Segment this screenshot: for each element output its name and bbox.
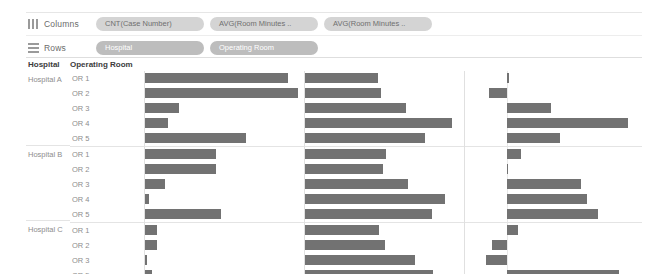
pill-avg-room-minutes-actual[interactable]: AVG(Room Minutes .. bbox=[210, 17, 318, 31]
operating-room-label[interactable]: OR 2 bbox=[70, 162, 144, 177]
bar-mark[interactable] bbox=[305, 270, 433, 274]
bar-mark[interactable] bbox=[507, 73, 510, 83]
tableau-worksheet: Columns CNT(Case Number) AVG(Room Minute… bbox=[0, 0, 663, 274]
columns-shelf[interactable]: Columns CNT(Case Number) AVG(Room Minute… bbox=[26, 13, 642, 36]
bar-mark[interactable] bbox=[507, 194, 587, 204]
bar-mark[interactable] bbox=[507, 209, 599, 219]
bar-mark[interactable] bbox=[507, 149, 522, 159]
operating-room-label[interactable]: OR 3 bbox=[70, 101, 144, 116]
operating-room-label[interactable]: OR 1 bbox=[70, 147, 144, 162]
operating-room-label[interactable]: OR 4 bbox=[70, 116, 144, 131]
pane-group bbox=[305, 223, 464, 274]
bar-mark[interactable] bbox=[305, 179, 408, 189]
operating-room-label[interactable]: OR 2 bbox=[70, 86, 144, 101]
chart-row bbox=[465, 192, 642, 207]
bar-mark[interactable] bbox=[507, 103, 552, 113]
chart-row bbox=[305, 238, 464, 253]
chart-row bbox=[465, 86, 642, 101]
bar-mark[interactable] bbox=[305, 88, 381, 98]
operating-room-label[interactable]: OR 3 bbox=[70, 253, 144, 268]
bar-mark[interactable] bbox=[489, 88, 507, 98]
bar-mark[interactable] bbox=[507, 164, 509, 174]
pane-group bbox=[465, 223, 642, 274]
bar-mark[interactable] bbox=[507, 118, 629, 128]
bar-mark[interactable] bbox=[305, 118, 452, 128]
operating-room-label[interactable]: OR 5 bbox=[70, 207, 144, 222]
hospital-name: Hospital C bbox=[26, 221, 70, 236]
hospital-group-label[interactable]: Hospital B bbox=[26, 146, 70, 221]
chart-row bbox=[305, 71, 464, 86]
room-group: OR 1OR 2OR 3OR 4OR 5 bbox=[70, 71, 144, 147]
chart-row bbox=[305, 147, 464, 162]
operating-room-label[interactable]: OR 2 bbox=[70, 238, 144, 253]
hospital-group-label[interactable]: Hospital C bbox=[26, 221, 70, 274]
bar-mark[interactable] bbox=[145, 164, 216, 174]
chart-row bbox=[465, 131, 642, 146]
operating-room-label[interactable]: OR 1 bbox=[70, 71, 144, 86]
header-operating-room: Operating Room bbox=[70, 60, 144, 71]
hospital-header-column: Hospital AHospital BHospital C bbox=[26, 71, 70, 274]
pill-avg-room-minutes-diff[interactable]: AVG(Room Minutes .. bbox=[324, 17, 432, 31]
pill-cnt-case-number[interactable]: CNT(Case Number) bbox=[96, 17, 204, 31]
bar-mark[interactable] bbox=[305, 103, 406, 113]
bar-mark[interactable] bbox=[145, 149, 216, 159]
bar-mark[interactable] bbox=[492, 240, 507, 250]
operating-room-label[interactable]: OR 3 bbox=[70, 177, 144, 192]
pane-avg-room-minutes-actual bbox=[304, 71, 464, 274]
bar-mark[interactable] bbox=[145, 209, 221, 219]
rows-shelf-label: Rows bbox=[44, 43, 66, 53]
rows-pills: Hospital Operating Room bbox=[96, 41, 318, 55]
bar-mark[interactable] bbox=[305, 73, 378, 83]
bar-mark[interactable] bbox=[145, 103, 179, 113]
hospital-group-label[interactable]: Hospital A bbox=[26, 71, 70, 146]
operating-room-label[interactable]: OR 5 bbox=[70, 268, 144, 274]
chart-row bbox=[305, 223, 464, 238]
bar-mark[interactable] bbox=[305, 149, 386, 159]
bar-mark[interactable] bbox=[305, 225, 379, 235]
bar-mark[interactable] bbox=[145, 240, 157, 250]
bar-mark[interactable] bbox=[507, 179, 581, 189]
pane-count-of-case-number bbox=[144, 71, 304, 274]
bar-mark[interactable] bbox=[486, 255, 507, 265]
chart-row bbox=[465, 177, 642, 192]
pill-operating-room[interactable]: Operating Room bbox=[210, 41, 318, 55]
operating-room-label[interactable]: OR 4 bbox=[70, 192, 144, 207]
columns-icon bbox=[28, 19, 39, 29]
pane-group bbox=[305, 147, 464, 223]
bar-mark[interactable] bbox=[145, 73, 288, 83]
chart-row bbox=[305, 268, 464, 274]
bar-mark[interactable] bbox=[145, 194, 149, 204]
bar-mark[interactable] bbox=[305, 194, 445, 204]
rows-shelf[interactable]: Rows Hospital Operating Room bbox=[26, 36, 642, 59]
bar-mark[interactable] bbox=[507, 270, 620, 274]
bar-mark[interactable] bbox=[145, 118, 168, 128]
chart-row bbox=[465, 101, 642, 116]
chart-row bbox=[145, 192, 304, 207]
pane-group bbox=[145, 147, 304, 223]
operating-room-label[interactable]: OR 5 bbox=[70, 131, 144, 146]
hospital-name: Hospital B bbox=[26, 146, 70, 161]
chart-row bbox=[305, 207, 464, 222]
bar-mark[interactable] bbox=[305, 133, 425, 143]
bar-mark[interactable] bbox=[145, 255, 147, 265]
bar-mark[interactable] bbox=[145, 225, 157, 235]
chart-row bbox=[145, 268, 304, 274]
chart-row bbox=[305, 131, 464, 146]
bar-mark[interactable] bbox=[145, 270, 152, 274]
chart-row bbox=[465, 238, 642, 253]
bar-mark[interactable] bbox=[507, 133, 560, 143]
chart-row bbox=[305, 192, 464, 207]
bar-mark[interactable] bbox=[305, 164, 383, 174]
bar-mark[interactable] bbox=[305, 209, 432, 219]
chart-row bbox=[145, 147, 304, 162]
chart-row bbox=[305, 101, 464, 116]
bar-mark[interactable] bbox=[305, 240, 385, 250]
chart-row bbox=[305, 162, 464, 177]
operating-room-label[interactable]: OR 1 bbox=[70, 223, 144, 238]
bar-mark[interactable] bbox=[507, 225, 519, 235]
bar-mark[interactable] bbox=[145, 179, 165, 189]
bar-mark[interactable] bbox=[145, 133, 246, 143]
bar-mark[interactable] bbox=[145, 88, 298, 98]
bar-mark[interactable] bbox=[305, 255, 415, 265]
pill-hospital[interactable]: Hospital bbox=[96, 41, 204, 55]
